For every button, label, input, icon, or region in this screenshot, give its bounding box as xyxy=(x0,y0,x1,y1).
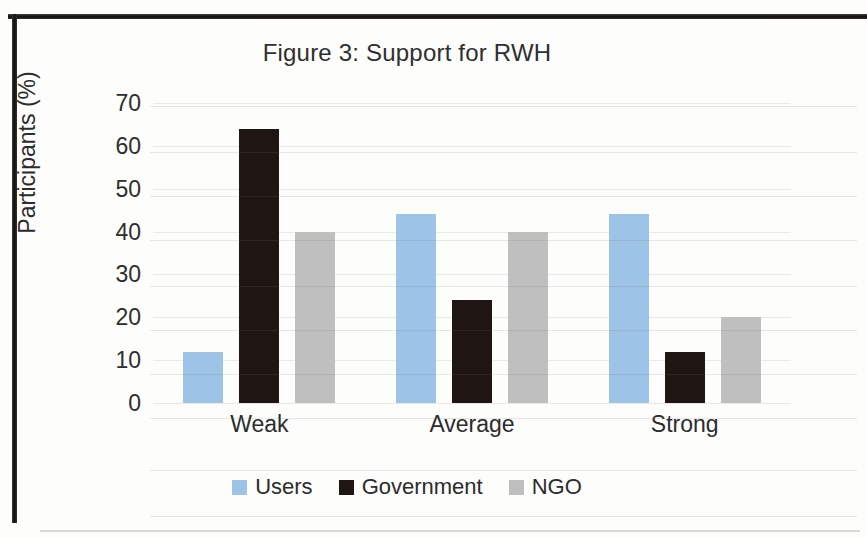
bar-group-weak xyxy=(153,103,366,403)
x-tick-label-strong: Strong xyxy=(578,411,791,438)
bar-groups xyxy=(153,103,791,403)
y-tick-label: 30 xyxy=(81,263,141,286)
y-tick-label: 20 xyxy=(81,306,141,329)
scanned-page: Figure 3: Support for RWH Participants (… xyxy=(0,0,867,538)
chart-title: Figure 3: Support for RWH xyxy=(17,39,797,67)
chart-legend: UsersGovernmentNGO xyxy=(17,474,797,500)
scan-noise-line xyxy=(150,516,857,517)
y-tick-label: 50 xyxy=(81,177,141,200)
x-tick-label-average: Average xyxy=(366,411,579,438)
x-axis-tick-labels: WeakAverageStrong xyxy=(153,411,791,438)
legend-item-users[interactable]: Users xyxy=(232,474,312,500)
scan-noise-line xyxy=(150,106,857,107)
scan-noise-line xyxy=(150,374,857,375)
scan-noise-line xyxy=(150,240,857,241)
y-axis-title: Participants (%) xyxy=(14,33,41,273)
scan-noise-line xyxy=(150,418,857,419)
x-tick-label-weak: Weak xyxy=(153,411,366,438)
legend-swatch-ngo-icon xyxy=(509,480,524,495)
bar-users-weak[interactable] xyxy=(183,352,223,403)
legend-label: Government xyxy=(362,474,483,500)
legend-label: NGO xyxy=(532,474,582,500)
page-frame-bottom-edge xyxy=(40,530,860,532)
legend-item-ngo[interactable]: NGO xyxy=(509,474,582,500)
legend-label: Users xyxy=(255,474,312,500)
y-tick-label: 70 xyxy=(81,92,141,115)
legend-item-government[interactable]: Government xyxy=(339,474,483,500)
legend-swatch-users-icon xyxy=(232,480,247,495)
bar-ngo-weak[interactable] xyxy=(295,232,335,403)
scan-noise-line xyxy=(150,330,857,331)
bar-government-average[interactable] xyxy=(452,300,492,403)
figure-chart: Figure 3: Support for RWH Participants (… xyxy=(17,19,867,523)
y-tick-label: 0 xyxy=(81,392,141,415)
y-tick-label: 60 xyxy=(81,134,141,157)
scan-noise-line xyxy=(150,286,857,287)
legend-swatch-government-icon xyxy=(339,480,354,495)
gridline xyxy=(153,403,791,404)
bar-government-strong[interactable] xyxy=(665,352,705,403)
bar-ngo-average[interactable] xyxy=(508,232,548,403)
y-tick-label: 40 xyxy=(81,220,141,243)
y-tick-label: 10 xyxy=(81,349,141,372)
bar-group-average xyxy=(366,103,579,403)
scan-noise-line xyxy=(150,152,857,153)
scan-noise-line xyxy=(150,470,857,471)
bar-group-strong xyxy=(578,103,791,403)
scan-noise-line xyxy=(150,196,857,197)
bar-government-weak[interactable] xyxy=(239,129,279,403)
plot-area: 706050403020100 xyxy=(153,103,791,403)
